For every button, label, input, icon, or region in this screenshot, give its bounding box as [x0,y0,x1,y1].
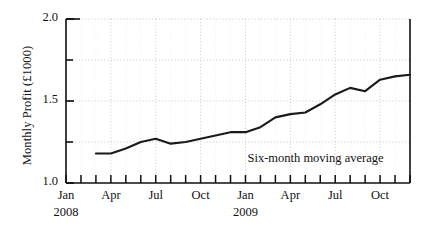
chart-container: Monthly Profit (£1000) 2.0 1.5 1.0 Jan A… [0,0,433,234]
data-series-line [96,75,410,154]
chart-plot-area [0,0,433,234]
